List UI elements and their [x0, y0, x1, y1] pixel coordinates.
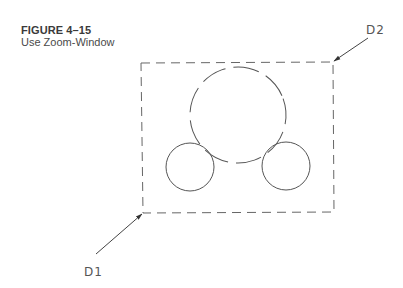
right-small-circle [262, 142, 310, 190]
zoom-window-rectangle [141, 62, 334, 213]
zoom-window-drawing: D1 D2 [0, 0, 403, 288]
d2-label: D2 [366, 23, 385, 37]
d1-label: D1 [84, 265, 103, 279]
large-circle [176, 53, 299, 176]
left-small-circle [166, 143, 214, 191]
d1-arrow [96, 214, 142, 254]
d2-arrow [334, 38, 368, 61]
